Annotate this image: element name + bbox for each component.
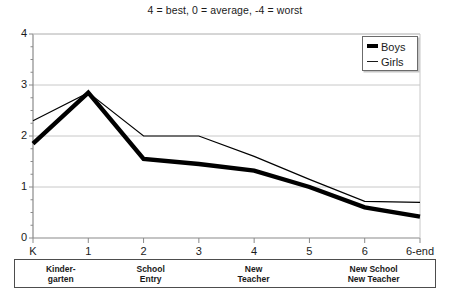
phase-cell-line-1: Kinder- (46, 264, 76, 274)
legend-item-girls: Girls (366, 54, 417, 69)
phase-cell-new-teacher: New Teacher (195, 260, 313, 287)
phase-cell-kindergarten: Kinder- garten (15, 260, 107, 287)
line-chart-figure: 4 = best, 0 = average, -4 = worst 43210 … (0, 0, 450, 297)
y-tick-label: 2 (5, 129, 27, 141)
phase-annotation-table: Kinder- garten School Entry New Teacher … (14, 259, 436, 288)
legend-item-boys: Boys (366, 39, 417, 54)
phase-cell-line-1: New (245, 264, 262, 274)
thin-line-swatch-icon (366, 56, 379, 67)
chart-legend: Boys Girls (362, 36, 418, 71)
x-tick-label: 1 (63, 245, 113, 257)
phase-cell-new-school-new-teacher: New School New Teacher (312, 260, 435, 287)
legend-label-boys: Boys (381, 41, 405, 53)
x-tick-label: 5 (284, 245, 334, 257)
x-axis-ticks (33, 238, 420, 243)
thick-line-swatch-icon (366, 41, 379, 52)
y-tick-label: 1 (5, 180, 27, 192)
x-tick-label: 4 (229, 245, 279, 257)
phase-cell-line-2: Entry (140, 274, 162, 284)
phase-cell-line-2: Teacher (238, 274, 270, 284)
y-tick-label: 0 (5, 231, 27, 243)
x-tick-label: 6 (340, 245, 390, 257)
y-tick-label: 4 (5, 27, 27, 39)
phase-cell-line-2: New Teacher (348, 274, 400, 284)
phase-cell-school-entry: School Entry (107, 260, 195, 287)
phase-cell-line-1: New School (350, 264, 398, 274)
y-tick-label: 3 (5, 78, 27, 90)
phase-cell-line-1: School (136, 264, 164, 274)
data-series-group (33, 93, 420, 217)
legend-label-girls: Girls (381, 56, 404, 68)
x-tick-label: K (8, 245, 58, 257)
x-tick-label: 2 (119, 245, 169, 257)
x-tick-label: 6-end (395, 245, 445, 257)
x-tick-label: 3 (174, 245, 224, 257)
phase-cell-line-2: garten (48, 274, 74, 284)
